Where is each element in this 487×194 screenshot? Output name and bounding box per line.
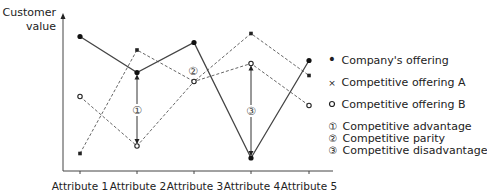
data-point: [307, 74, 311, 78]
data-point: [78, 94, 82, 98]
data-point: [135, 144, 139, 148]
legend-label: Competitive offering B: [342, 98, 466, 111]
data-point: [135, 48, 139, 52]
data-point: [77, 34, 82, 39]
x-tick-label-attribute-2: Attribute 2: [110, 180, 166, 192]
legend-label: Competitive offering A: [342, 76, 466, 89]
note-label: Competitive disadvantage: [343, 144, 487, 157]
series-line-0: [80, 37, 309, 159]
data-point: [78, 152, 82, 156]
data-point: [134, 70, 139, 75]
legend-item-offering-a: × Competitive offering A: [326, 76, 466, 89]
x-tick-label-attribute-4: Attribute 4: [224, 180, 280, 192]
circled-one-icon: ①: [327, 121, 339, 133]
data-point: [306, 58, 311, 63]
filled-dot-icon: •: [326, 54, 338, 64]
y-axis-arrow-icon: [61, 13, 66, 19]
y-axis-label-line2: value: [3, 20, 56, 34]
data-point: [249, 61, 253, 65]
open-circle-icon: [326, 99, 338, 110]
data-point: [191, 40, 196, 45]
circled-two-icon: ②: [327, 133, 339, 145]
data-point: [307, 103, 311, 107]
x-tick-label-attribute-3: Attribute 3: [167, 180, 223, 192]
legend-item-company: • Company's offering: [326, 54, 449, 67]
svg-text:①: ①: [132, 104, 142, 117]
data-point: [192, 79, 196, 83]
data-point: [248, 155, 253, 160]
annotation-layer: ①②③: [131, 65, 257, 156]
circled-three-icon: ③: [327, 145, 339, 157]
note-competitive-disadvantage: ③ Competitive disadvantage: [327, 145, 487, 157]
legend-label: Company's offering: [342, 54, 449, 67]
data-point: [249, 32, 253, 36]
series-line-1: [80, 34, 309, 154]
x-tick-label-attribute-5: Attribute 5: [281, 180, 337, 192]
cross-marker-icon: ×: [326, 78, 338, 88]
x-tick-label-attribute-1: Attribute 1: [52, 180, 108, 192]
y-axis-label-line1: Customer: [3, 6, 56, 20]
svg-text:②: ②: [188, 65, 198, 78]
y-axis-label: Customer value: [3, 6, 56, 34]
series-layer: [77, 32, 311, 161]
legend-item-offering-b: Competitive offering B: [326, 98, 466, 111]
svg-text:③: ③: [246, 105, 256, 118]
